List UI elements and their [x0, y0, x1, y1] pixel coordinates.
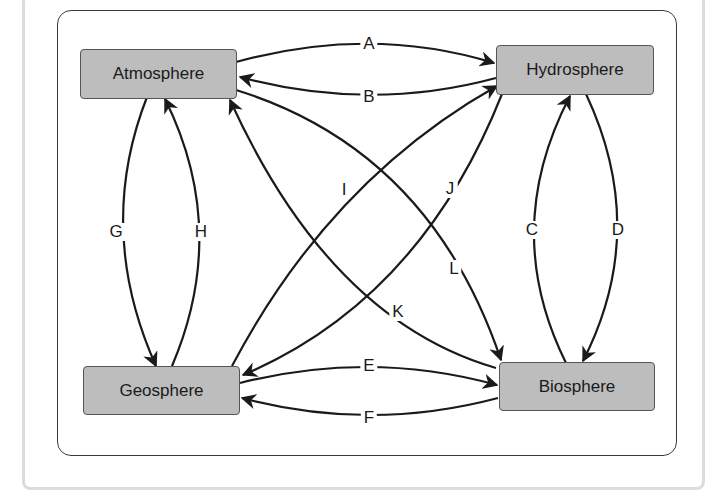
node-label: Biosphere — [539, 377, 616, 397]
edge-label-a: A — [360, 35, 377, 53]
edge-label-e: E — [360, 357, 377, 375]
edge-g — [123, 97, 156, 366]
edge-j — [243, 94, 502, 375]
node-label: Geosphere — [119, 381, 203, 401]
edge-label-b: B — [360, 88, 377, 106]
node-label: Hydrosphere — [526, 60, 623, 80]
edge-k — [230, 100, 496, 368]
edge-label-g: G — [106, 223, 125, 241]
edge-l — [236, 90, 501, 360]
edge-label-f: F — [361, 409, 377, 427]
edge-label-j: J — [443, 180, 458, 198]
node-biosphere: Biosphere — [499, 362, 655, 411]
edge-label-l: L — [446, 260, 461, 278]
edge-label-k: K — [389, 303, 406, 321]
node-geosphere: Geosphere — [83, 366, 240, 415]
edge-i — [232, 86, 497, 366]
node-label: Atmosphere — [113, 64, 205, 84]
edge-label-i: I — [339, 181, 350, 199]
node-hydrosphere: Hydrosphere — [496, 45, 654, 95]
edge-label-d: D — [609, 221, 627, 239]
edge-label-h: H — [192, 223, 210, 241]
edge-label-c: C — [523, 221, 541, 239]
node-atmosphere: Atmosphere — [80, 49, 237, 99]
